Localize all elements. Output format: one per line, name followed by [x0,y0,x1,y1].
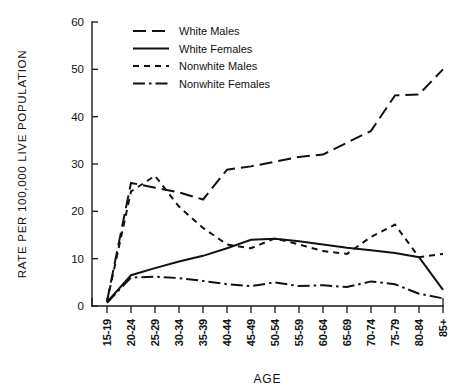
x-tick-label: 50-54 [269,318,281,346]
series-line-nonwhite-males [107,176,443,302]
x-tick-label: 45-49 [245,319,257,346]
x-tick-label: 65-69 [341,319,353,346]
x-axis: 15-1920-2425-2930-3435-3940-4445-4950-54… [92,298,449,346]
x-tick-label: 85+ [437,319,449,337]
y-tick-label: 10 [71,253,84,265]
y-tick-label: 50 [71,63,84,75]
x-tick-label: 75-79 [389,319,401,346]
x-tick-label: 15-19 [101,319,113,346]
y-tick-label: 30 [71,158,84,170]
legend-label: Nonwhite Males [179,60,258,72]
x-tick-label: 35-39 [197,319,209,346]
chart-container: 0102030405060 15-1920-2425-2930-3435-394… [0,0,456,392]
y-axis: 0102030405060 [71,16,98,312]
chart-legend: White MalesWhite FemalesNonwhite MalesNo… [133,25,271,90]
series-line-white-females [107,239,443,302]
y-tick-label: 60 [71,16,84,28]
x-tick-label: 40-44 [221,318,233,346]
legend-label: White Females [179,43,253,55]
x-tick-label: 30-34 [173,318,185,346]
legend-label: White Males [179,25,240,37]
y-axis-title: RATE PER 100,000 LIVE POPULATION [16,50,28,278]
y-tick-label: 20 [71,205,84,217]
line-chart: 0102030405060 15-1920-2425-2930-3435-394… [0,0,456,392]
series-line-nonwhite-females [107,277,443,303]
x-axis-title: AGE [253,372,281,386]
x-tick-label: 70-74 [365,318,377,346]
y-tick-label: 40 [71,111,84,123]
x-tick-label: 55-59 [293,319,305,346]
x-tick-label: 80-84 [413,318,425,346]
series-lines [107,69,443,302]
x-tick-label: 20-24 [125,318,137,346]
x-tick-label: 60-64 [317,318,329,346]
x-tick-label: 25-29 [149,319,161,346]
y-tick-label: 0 [78,300,84,312]
legend-label: Nonwhite Females [179,78,271,90]
